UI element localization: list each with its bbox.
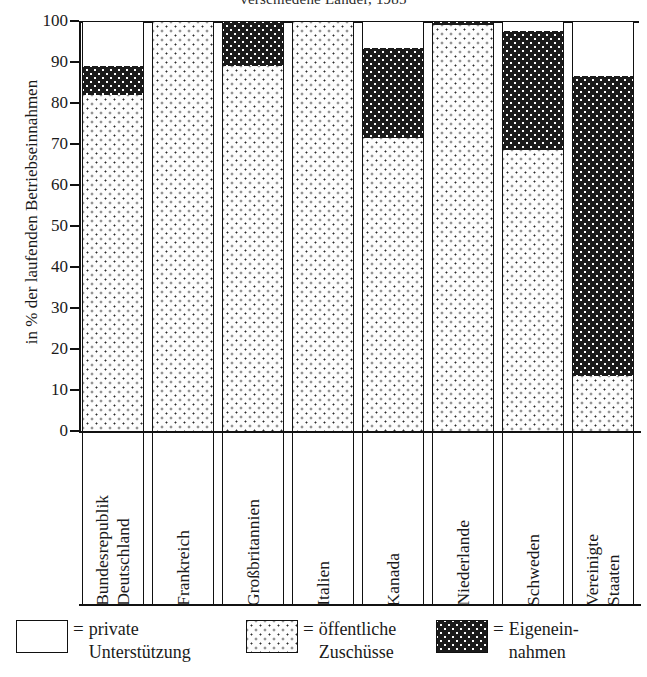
y-tick-70 [70,143,79,145]
legend-label: private Unterstützung [89,618,191,664]
category-label-text: Bundesrepublik Deutschland [92,489,134,606]
bar-segment-dark [362,48,424,138]
y-tick-label-0: 0 [22,422,68,439]
bar-segment-light [82,95,144,431]
category-label-text: Frankreich [173,524,194,606]
bar-segment-dark [82,66,144,95]
legend-equals-sign: = [73,618,84,640]
category-label-text: Italien [313,555,334,606]
bar-segment-dark [572,76,634,375]
y-tick-label-30: 30 [22,299,68,316]
bar-segment-light [292,21,354,431]
bar-6 [432,21,494,431]
bar-1 [82,21,144,431]
category-label-text: Schweden [523,528,544,606]
bar-8 [572,21,634,431]
y-tick-label-50: 50 [22,217,68,234]
bar-segment-light [432,25,494,431]
bar-segment-light [502,150,564,431]
y-tick-60 [70,184,79,186]
category-label-rotation-wrapper: Niederlande [433,433,493,606]
category-label-7: Schweden [502,433,564,606]
y-tick-50 [70,225,79,227]
y-tick-40 [70,266,79,268]
y-tick-label-90: 90 [22,53,68,70]
category-label-rotation-wrapper: Bundesrepublik Deutschland [83,433,143,606]
bar-segment-white [572,21,634,76]
category-label-rotation-wrapper: Italien [293,433,353,606]
bar-segment-light [222,66,284,431]
y-tick-label-70: 70 [22,135,68,152]
category-label-3: Großbritannien [222,433,284,606]
bar-segment-light [152,21,214,431]
chart-title: verschiedene Länder, 1985 [0,0,647,8]
bar-segment-dark [502,31,564,150]
bar-segment-light [362,138,424,431]
y-tick-label-10: 10 [22,381,68,398]
category-label-8: Vereinigte Staaten [572,433,634,606]
category-bottom-rule [79,604,641,606]
category-label-text: Großbritannien [243,493,264,606]
category-label-text: Vereinigte Staaten [582,528,624,606]
y-tick-20 [70,348,79,350]
legend-item-white: =private Unterstützung [16,618,191,664]
light-dotted-swatch [246,620,298,653]
bar-2 [152,21,214,431]
y-tick-80 [70,102,79,104]
bar-4 [292,21,354,431]
bar-3 [222,21,284,431]
legend-item-dark: =Eigenein- nahmen [436,618,579,664]
category-label-rotation-wrapper: Kanada [363,433,423,606]
legend-item-light: =öffentliche Zuschüsse [246,618,396,664]
bar-segment-dark [432,21,494,25]
y-tick-90 [70,61,79,63]
legend: =private Unterstützung=öffentliche Zusch… [8,618,647,673]
dark-dotted-swatch [436,620,488,653]
category-label-text: Niederlande [453,514,474,606]
y-tick-label-60: 60 [22,176,68,193]
y-tick-label-100: 100 [22,12,68,29]
y-tick-0 [70,430,79,432]
category-label-rotation-wrapper: Schweden [503,433,563,606]
y-tick-10 [70,389,79,391]
legend-label: öffentliche Zuschüsse [319,618,397,664]
bar-segment-dark [222,21,284,66]
category-label-4: Italien [292,433,354,606]
category-label-1: Bundesrepublik Deutschland [82,433,144,606]
plot-area [79,21,639,431]
category-label-rotation-wrapper: Vereinigte Staaten [573,433,633,606]
category-label-5: Kanada [362,433,424,606]
y-tick-100 [70,20,79,22]
category-label-area: Bundesrepublik DeutschlandFrankreichGroß… [79,433,641,606]
legend-equals-sign: = [303,618,314,640]
bar-segment-white [82,21,144,66]
category-label-2: Frankreich [152,433,214,606]
bar-segment-white [362,21,424,48]
white-swatch [16,620,68,653]
bar-segment-white [502,21,564,31]
category-label-6: Niederlande [432,433,494,606]
bar-5 [362,21,424,431]
y-tick-label-40: 40 [22,258,68,275]
y-tick-label-20: 20 [22,340,68,357]
legend-label: Eigenein- nahmen [509,618,579,664]
category-label-text: Kanada [383,547,404,606]
bar-7 [502,21,564,431]
legend-equals-sign: = [493,618,504,640]
y-tick-30 [70,307,79,309]
category-label-rotation-wrapper: Frankreich [153,433,213,606]
category-label-rotation-wrapper: Großbritannien [223,433,283,606]
bar-segment-light [572,376,634,431]
y-tick-label-80: 80 [22,94,68,111]
